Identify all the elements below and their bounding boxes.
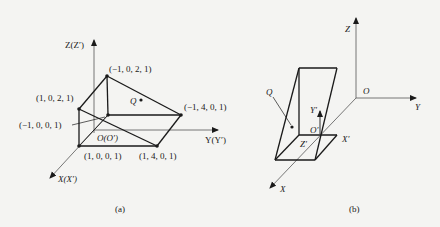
y-axis-label-b: Y (415, 102, 421, 112)
q-point-b (290, 125, 293, 128)
local-origin-label-b: O′ (310, 125, 319, 135)
caption-a: (a) (115, 204, 125, 214)
q-label-b: Q (266, 87, 273, 97)
point-label-3: (−1, 4, 0, 1) (184, 102, 227, 112)
figure-a: Z(Z′) Y(Y′) X(X′) O(O′) (−1, 0, 2, 1) (1… (19, 40, 227, 214)
y-axis-label-a: Y(Y′) (205, 135, 226, 145)
z-axis-label-a: Z(Z′) (65, 40, 84, 50)
origin-label-b: O (363, 86, 370, 96)
caption-b: (b) (349, 204, 360, 214)
point-label-5: (1, 0, 0, 1) (84, 151, 122, 161)
local-x-label-b: X′ (341, 134, 350, 144)
x-axis-label-a: X(X′) (57, 174, 77, 184)
origin-label-a: O(O′) (97, 133, 118, 143)
figure-b: Z Y X O Y′ O′ Z′ X′ Q (b) (266, 18, 421, 214)
point-label-4: (−1, 0, 0, 1) (19, 120, 62, 130)
figure-canvas: Z(Z′) Y(Y′) X(X′) O(O′) (−1, 0, 2, 1) (1… (0, 0, 440, 227)
point-label-6: (1, 4, 0, 1) (139, 151, 177, 161)
vertex-dots-a (77, 74, 183, 148)
point-label-1: (−1, 0, 2, 1) (109, 64, 152, 74)
x-axis-label-b: X (279, 184, 286, 194)
q-point-a (139, 98, 142, 101)
q-label-a: Q (130, 96, 137, 106)
local-z-label-b: Z′ (300, 139, 308, 149)
point-label-2: (1, 0, 2, 1) (36, 93, 74, 103)
z-axis-label-b: Z (345, 24, 351, 34)
local-y-label-b: Y′ (310, 105, 318, 115)
